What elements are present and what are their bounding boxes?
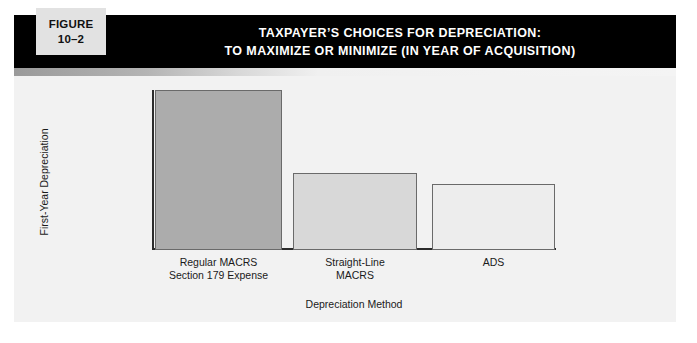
title-band-shadow [14,68,676,76]
category-label-line: Straight-Line [293,256,417,269]
figure-tab-number: 10–2 [58,32,84,46]
figure-title: TAXPAYER’S CHOICES FOR DEPRECIATION: TO … [124,15,676,68]
title-line-2: TO MAXIMIZE OR MINIMIZE (IN YEAR OF ACQU… [225,43,576,59]
y-axis-line [152,90,154,250]
figure-number-tab: FIGURE 10–2 [36,8,106,55]
bar-ads [432,184,555,250]
category-label-line: ADS [432,256,555,269]
figure-root: TAXPAYER’S CHOICES FOR DEPRECIATION: TO … [0,0,697,343]
chart-panel: First-Year Depreciation Regular MACRS Se… [14,76,676,322]
y-axis-label: First-Year Depreciation [38,107,50,257]
title-band: TAXPAYER’S CHOICES FOR DEPRECIATION: TO … [14,15,676,68]
category-label-regular-macrs: Regular MACRS Section 179 Expense [155,256,282,282]
figure-tab-label: FIGURE [49,17,94,31]
x-axis-label: Depreciation Method [152,298,556,310]
title-line-1: TAXPAYER’S CHOICES FOR DEPRECIATION: [259,25,542,41]
bar-straight-line-macrs [293,173,417,250]
category-label-straight-line-macrs: Straight-Line MACRS [293,256,417,282]
category-label-line: Section 179 Expense [155,269,282,282]
bar-regular-macrs [155,90,282,250]
category-label-line: Regular MACRS [155,256,282,269]
category-label-ads: ADS [432,256,555,269]
plot-area: First-Year Depreciation Regular MACRS Se… [14,76,676,322]
category-label-line: MACRS [293,269,417,282]
